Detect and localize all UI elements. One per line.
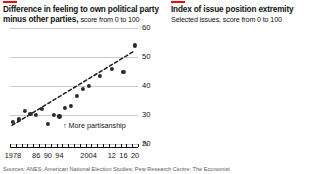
x-tick-2015 (121, 144, 122, 148)
x-tick-2003 (86, 144, 87, 148)
x-tick-2001 (80, 144, 81, 148)
x-tick-1991 (51, 144, 52, 148)
x-tick-1997 (68, 144, 69, 148)
x-tick-2013 (115, 144, 116, 148)
chart-panel-right: Index of issue position extremity Select… (168, 0, 335, 174)
x-tick-2007 (97, 144, 98, 148)
chart-title-right: Index of issue position extremity Select… (171, 5, 333, 24)
x-tick-2021 (138, 144, 139, 148)
annotation-left: ↑ More partisanship (63, 121, 126, 130)
chart-title-left: Difference in feeling to own political p… (3, 5, 165, 24)
x-tick-1979 (16, 144, 17, 148)
plot-area-left: ↑ More partisanship (10, 28, 138, 144)
chart-title-right-line1: Index of issue position extremity (171, 5, 293, 14)
y-tick-label-60: 60 (142, 23, 162, 32)
x-tick-1999 (74, 144, 75, 148)
chart-subtitle-left: score from 0 to 100 (80, 15, 139, 24)
x-tick-2017 (126, 144, 127, 148)
y-tick-label-30: 30 (142, 110, 162, 119)
chart-subtitle-right: Selected issues, score from 0 to 100 (171, 15, 282, 24)
chart-panel-left: Difference in feeling to own political p… (0, 0, 168, 174)
x-tick-1995 (62, 144, 63, 148)
x-tick-label-90: 90 (44, 151, 52, 160)
x-tick-2011 (109, 144, 110, 148)
x-axis-line-left (10, 147, 138, 148)
x-tick-label-86: 86 (32, 151, 40, 160)
x-tick-label-20: 20 (131, 151, 139, 160)
x-tick-1977 (10, 144, 11, 148)
axis-break-symbol-left: ∿ (142, 140, 149, 148)
red-rule-right (171, 1, 185, 3)
x-tick-label-12: 12 (108, 151, 116, 160)
x-tick-1985 (33, 144, 34, 148)
x-tick-label-2004: 2004 (80, 151, 96, 160)
x-tick-2005 (91, 144, 92, 148)
x-tick-label-94: 94 (55, 151, 63, 160)
x-tick-label-1978: 1978 (5, 151, 21, 160)
red-rule-left (3, 1, 17, 3)
x-tick-1993 (57, 144, 58, 148)
y-tick-label-40: 40 (142, 81, 162, 90)
y-tick-label-50: 50 (142, 52, 162, 61)
x-tick-1987 (39, 144, 40, 148)
x-tick-1989 (45, 144, 46, 148)
chart-title-left-line1: Difference in feeling to own political p… (3, 5, 159, 14)
x-tick-2009 (103, 144, 104, 148)
infographic-root: Difference in feeling to own political p… (0, 0, 335, 174)
x-tick-label-16: 16 (119, 151, 127, 160)
chart-title-left-line2: minus other parties, (3, 15, 78, 24)
x-tick-1981 (22, 144, 23, 148)
x-tick-1983 (27, 144, 28, 148)
x-tick-2019 (132, 144, 133, 148)
source-note: Sources: ANES; American National Electio… (3, 166, 230, 172)
